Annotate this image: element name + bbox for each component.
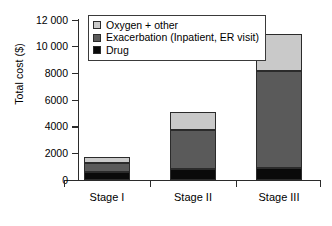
bar-segment[interactable] — [256, 168, 302, 180]
clipped-caption — [0, 216, 332, 226]
x-tick-mark — [320, 181, 321, 187]
legend-item-exacerbation[interactable]: Exacerbation (Inpatient, ER visit) — [93, 32, 259, 45]
legend-item-oxygen-other[interactable]: Oxygen + other — [93, 19, 259, 32]
bar-segment[interactable] — [84, 157, 130, 163]
chart-figure: Total cost ($) 12 000 10 000 8000 6000 4… — [0, 0, 332, 226]
x-category-label-stage-iii: Stage III — [234, 191, 324, 203]
bar-segment[interactable] — [84, 163, 130, 172]
x-tick-mark — [64, 181, 65, 187]
legend-label: Drug — [106, 45, 129, 56]
bar-segment[interactable] — [170, 169, 216, 180]
x-axis-line — [64, 180, 321, 181]
legend-swatch-icon — [93, 21, 101, 29]
bar-segment[interactable] — [170, 112, 216, 130]
x-tick-mark — [150, 181, 151, 187]
bar-segment[interactable] — [256, 71, 302, 168]
chart-legend: Oxygen + other Exacerbation (Inpatient, … — [88, 15, 266, 61]
legend-swatch-icon — [93, 46, 101, 54]
bar-segment[interactable] — [84, 172, 130, 180]
x-tick-mark — [236, 181, 237, 187]
x-category-label-stage-i: Stage I — [62, 191, 152, 203]
legend-label: Exacerbation (Inpatient, ER visit) — [106, 32, 259, 43]
legend-swatch-icon — [93, 34, 101, 42]
bar-stage-i[interactable] — [84, 157, 130, 180]
legend-label: Oxygen + other — [106, 20, 178, 31]
bar-segment[interactable] — [170, 130, 216, 169]
bar-stage-ii[interactable] — [170, 112, 216, 180]
legend-item-drug[interactable]: Drug — [93, 44, 259, 57]
x-category-label-stage-ii: Stage II — [148, 191, 238, 203]
